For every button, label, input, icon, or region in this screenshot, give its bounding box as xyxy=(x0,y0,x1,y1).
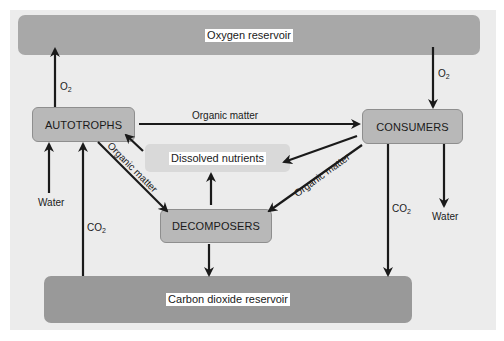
co2-text: CO xyxy=(87,222,102,233)
o2-subscript: 2 xyxy=(68,86,72,93)
autotrophs-node: AUTOTROPHS xyxy=(32,107,135,142)
o2-label-right: O2 xyxy=(438,68,450,80)
dissolved-nutrients-node: Dissolved nutrients xyxy=(145,144,290,172)
water-label-right: Water xyxy=(432,211,458,222)
co2-text: CO xyxy=(392,203,407,214)
co2-label-right: CO2 xyxy=(392,203,411,215)
co2-subscript: 2 xyxy=(407,208,411,215)
water-label-left: Water xyxy=(38,197,64,208)
carbon-dioxide-reservoir: Carbon dioxide reservoir xyxy=(44,276,412,323)
carbon-dioxide-reservoir-label: Carbon dioxide reservoir xyxy=(166,293,290,306)
co2-label-left: CO2 xyxy=(87,222,106,234)
co2-subscript: 2 xyxy=(102,227,106,234)
o2-text: O xyxy=(60,81,68,92)
o2-label-left: O2 xyxy=(60,81,72,93)
consumers-node: CONSUMERS xyxy=(362,109,463,144)
decomposers-node: DECOMPOSERS xyxy=(160,209,272,243)
o2-text: O xyxy=(438,68,446,79)
dissolved-nutrients-label: Dissolved nutrients xyxy=(169,152,266,165)
decomposers-label: DECOMPOSERS xyxy=(172,220,260,232)
oxygen-reservoir: Oxygen reservoir xyxy=(18,15,480,55)
consumers-label: CONSUMERS xyxy=(376,121,448,133)
o2-subscript: 2 xyxy=(446,73,450,80)
autotrophs-label: AUTOTROPHS xyxy=(45,119,122,131)
oxygen-reservoir-label: Oxygen reservoir xyxy=(205,29,293,42)
organic-matter-label-top: Organic matter xyxy=(192,110,258,121)
